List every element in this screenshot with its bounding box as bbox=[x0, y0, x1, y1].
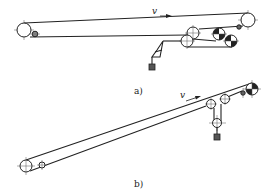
snub-pulley-a-left bbox=[30, 31, 40, 37]
carrying-belt-a bbox=[24, 13, 248, 23]
velocity-label-a: v bbox=[152, 6, 157, 16]
belt-a-wrap bbox=[193, 39, 216, 41]
bend-pulley-b-1 bbox=[205, 98, 217, 110]
return-belt-a-left bbox=[30, 35, 187, 37]
subfigure-b: v b) bbox=[17, 80, 261, 189]
drive-pulley-a-2 bbox=[223, 35, 239, 47]
belt-conveyor-diagram: v a) bbox=[0, 0, 274, 191]
return-belt-b bbox=[30, 106, 206, 171]
subfigure-a: v a) bbox=[14, 6, 258, 96]
snub-pulley-b-left bbox=[37, 160, 47, 170]
tension-frame-a bbox=[149, 41, 163, 70]
counterweight-a bbox=[149, 64, 155, 70]
idler-a-small bbox=[237, 25, 241, 29]
tail-pulley-b bbox=[17, 157, 35, 175]
head-pulley-b bbox=[243, 80, 261, 98]
drive-pulley-a-1 bbox=[211, 28, 227, 40]
arrow-icon-b bbox=[195, 96, 201, 100]
arrow-icon-a bbox=[166, 14, 172, 18]
counterweight-b bbox=[214, 134, 220, 140]
caption-a: a) bbox=[134, 86, 143, 96]
caption-b: b) bbox=[134, 179, 143, 189]
velocity-label-b: v bbox=[180, 90, 185, 100]
bend-pulley-b-2 bbox=[219, 93, 231, 105]
idler-b-small bbox=[241, 88, 245, 98]
